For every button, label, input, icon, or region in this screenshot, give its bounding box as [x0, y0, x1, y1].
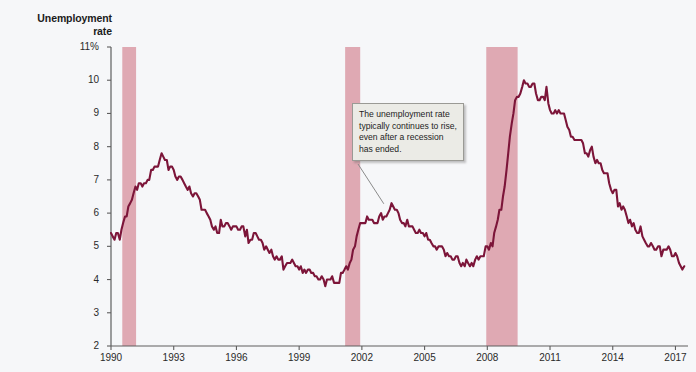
x-axis-tick-label: 2011	[525, 353, 575, 363]
x-axis-tick-label: 2014	[588, 353, 638, 363]
annotation-leader-line	[358, 164, 384, 204]
recession-band	[122, 47, 136, 346]
x-axis-tick-label: 1993	[149, 353, 199, 363]
x-axis-tick-label: 1990	[86, 353, 136, 363]
x-axis-tick-label: 1996	[211, 353, 261, 363]
y-axis-tick-label: 2	[59, 341, 99, 351]
recession-band	[345, 47, 360, 346]
y-axis-tick-label: 8	[59, 142, 99, 152]
x-axis-tick-label: 2002	[337, 353, 387, 363]
x-axis-tick-label: 1999	[274, 353, 324, 363]
annotation-text: The unemployment rate typically continue…	[359, 109, 457, 154]
y-axis-tick-label: 10	[59, 75, 99, 85]
chart-plot-area	[0, 0, 696, 372]
recession-bands-group	[122, 47, 517, 346]
y-axis-tick-label: 7	[59, 175, 99, 185]
x-axis-tick-label: 2017	[650, 353, 696, 363]
y-axis-tick-label: 4	[59, 275, 99, 285]
y-axis-tick-label: 11%	[59, 42, 99, 52]
x-axis-tick-label: 2008	[462, 353, 512, 363]
y-axis-tick-label: 3	[59, 308, 99, 318]
y-axis-tick-label: 5	[59, 241, 99, 251]
annotation-callout: The unemployment rate typically continue…	[352, 103, 464, 161]
annotation-leader-line	[358, 164, 384, 204]
x-axis-tick-label: 2005	[400, 353, 450, 363]
unemployment-rate-chart-figure: Unemployment rate 11%1098765432 19901993…	[0, 0, 696, 372]
y-axis-tick-label: 6	[59, 208, 99, 218]
y-axis-tick-label: 9	[59, 108, 99, 118]
